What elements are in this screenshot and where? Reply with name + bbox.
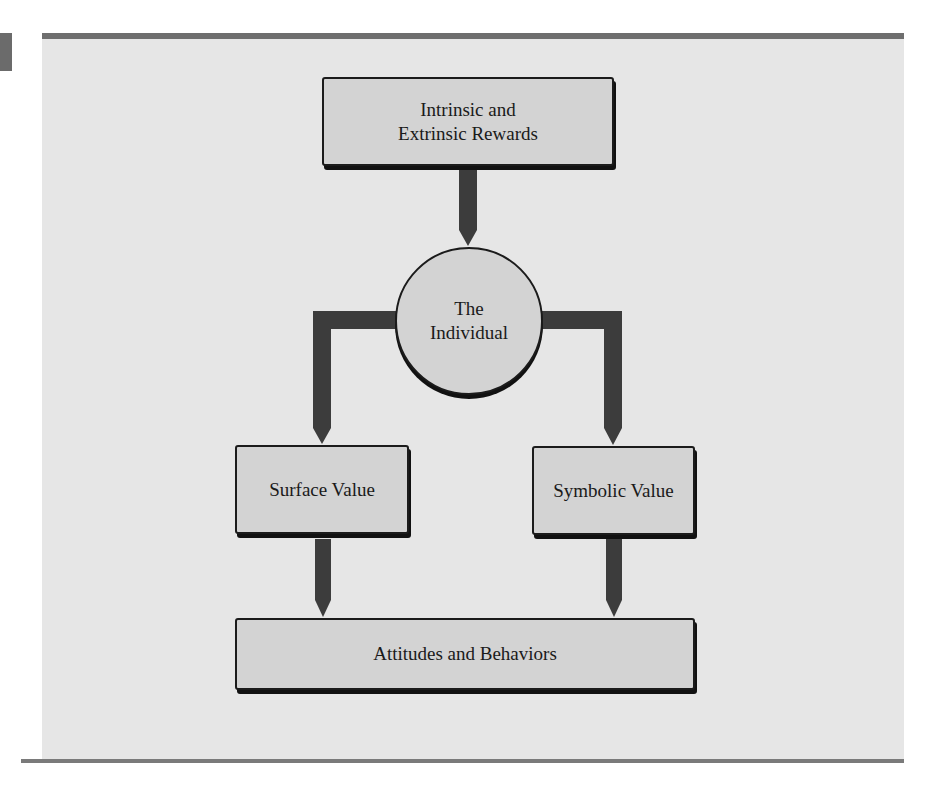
arrow-symbolic-to-outcomes: [606, 539, 622, 617]
node-label: Attitudes and Behaviors: [373, 642, 557, 666]
node-label-line1: Intrinsic and: [398, 98, 538, 122]
node-label-line2: Extrinsic Rewards: [398, 122, 538, 146]
node-intrinsic-extrinsic-rewards: Intrinsic and Extrinsic Rewards: [322, 77, 614, 166]
node-the-individual: The Individual: [395, 247, 543, 395]
arrow-individual-to-symbolic: [538, 311, 622, 445]
node-attitudes-and-behaviors: Attitudes and Behaviors: [235, 618, 695, 690]
node-label: Symbolic Value: [553, 479, 674, 503]
node-label: Surface Value: [269, 478, 375, 502]
arrow-individual-to-surface: [313, 311, 400, 444]
arrow-rewards-to-individual: [459, 168, 477, 246]
arrow-surface-to-outcomes: [315, 539, 331, 617]
node-symbolic-value: Symbolic Value: [532, 446, 695, 535]
node-surface-value: Surface Value: [235, 445, 409, 534]
node-label-line1: The: [430, 297, 508, 321]
node-label-line2: Individual: [430, 321, 508, 345]
